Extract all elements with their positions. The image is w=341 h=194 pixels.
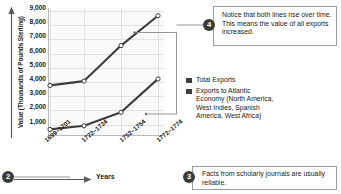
chart-page: Value (Thousands of Pounds Sterling) 9,0… bbox=[0, 0, 341, 194]
callout-text: Notice that both lines rise over time. T… bbox=[222, 11, 332, 37]
callout-text: Facts from scholarly journals are usuall… bbox=[202, 170, 333, 187]
callout-badge-3[interactable]: 3 bbox=[183, 171, 195, 183]
callout-badge-4[interactable]: 4 bbox=[203, 19, 215, 31]
callout-badge-2[interactable]: 2 bbox=[2, 171, 14, 183]
callout-box-4: Notice that both lines rise over time. T… bbox=[213, 6, 337, 46]
callout-box-3: Facts from scholarly journals are usuall… bbox=[192, 166, 337, 190]
